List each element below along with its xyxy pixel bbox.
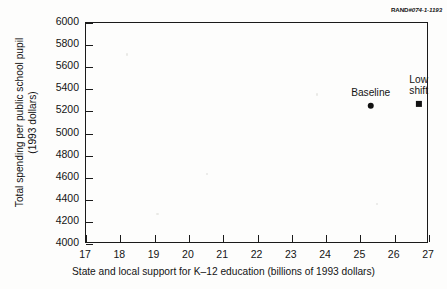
y-axis-tick-label: 5400: [0, 81, 79, 93]
x-axis-tick: [189, 235, 190, 242]
rand-credit-mark: RAND: [391, 6, 408, 13]
y-axis-tick-label: 6000: [0, 15, 79, 27]
y-axis-tick: [86, 23, 93, 24]
data-point-marker: [416, 101, 422, 107]
data-point-label-line: shift: [409, 85, 428, 97]
x-axis-tick: [223, 235, 224, 242]
y-axis-tick-label: 5000: [0, 126, 79, 138]
y-axis-tick-label: 4600: [0, 170, 79, 182]
y-axis-tick-label: 5600: [0, 59, 79, 71]
data-point-marker: [367, 103, 374, 110]
y-axis-tick-label: 4200: [0, 214, 79, 226]
x-axis-tick: [326, 235, 327, 242]
y-axis-tick: [86, 222, 93, 223]
y-axis-tick-label: 5200: [0, 103, 79, 115]
y-axis-tick-label: 4000: [0, 236, 79, 248]
data-point-label: Baseline: [351, 87, 390, 99]
y-axis-tick: [86, 200, 93, 201]
x-axis-tick: [258, 235, 259, 242]
y-axis-tick: [86, 178, 93, 179]
y-axis-tick: [86, 134, 93, 135]
plot-frame: BaselineLowshift: [85, 22, 428, 243]
rand-credit-number: #074-1-1193: [408, 6, 442, 13]
x-axis-tick: [292, 235, 293, 242]
y-axis-tick: [86, 244, 93, 245]
x-axis-title: State and local support for K–12 educati…: [0, 266, 447, 277]
chart-screenshot: RAND#074-1-1193 BaselineLowshift State a…: [0, 0, 447, 289]
plot-area: BaselineLowshift: [86, 23, 427, 242]
x-axis-tick: [120, 235, 121, 242]
y-axis-tick-label: 4400: [0, 192, 79, 204]
x-axis-tick: [360, 235, 361, 242]
data-point-label-line: Baseline: [351, 87, 390, 99]
y-axis-tick-label: 4800: [0, 148, 79, 160]
y-axis-tick: [86, 45, 93, 46]
x-axis-tick: [395, 235, 396, 242]
y-axis-tick: [86, 156, 93, 157]
y-axis-tick: [86, 67, 93, 68]
x-axis-tick-label: 27: [408, 248, 447, 260]
x-axis-tick: [429, 235, 430, 242]
data-point-label-line: Low: [409, 74, 428, 86]
y-axis-tick: [86, 111, 93, 112]
rand-credit-label: RAND#074-1-1193: [391, 6, 442, 13]
y-axis-tick: [86, 89, 93, 90]
y-axis-tick-label: 5800: [0, 37, 79, 49]
x-axis-tick: [86, 235, 87, 242]
data-point-label: Lowshift: [409, 74, 428, 97]
x-axis-tick: [155, 235, 156, 242]
